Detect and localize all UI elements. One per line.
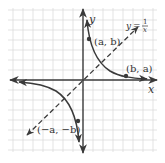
y-axis-label: y (88, 13, 96, 26)
equation-lhs: y (125, 21, 132, 31)
point-label-b-a: (b, a) (126, 63, 153, 74)
equation-label: y = 1 x (125, 18, 148, 34)
point-label-a-b: (a, b) (94, 36, 121, 47)
equation-denominator: x (143, 26, 147, 34)
point-neg-a-neg-b (76, 119, 80, 123)
point-a-b (87, 37, 91, 41)
equation-numerator: 1 (143, 18, 147, 26)
point-label-neg-a-neg-b: (−a, −b) (37, 124, 80, 135)
point-b-a (124, 74, 128, 78)
x-axis-label: x (148, 83, 155, 96)
equation-eq: = (133, 21, 141, 31)
hyperbola-graph: y x (a, b) (b, a) (−a, −b) y = 1 x (0, 0, 165, 163)
